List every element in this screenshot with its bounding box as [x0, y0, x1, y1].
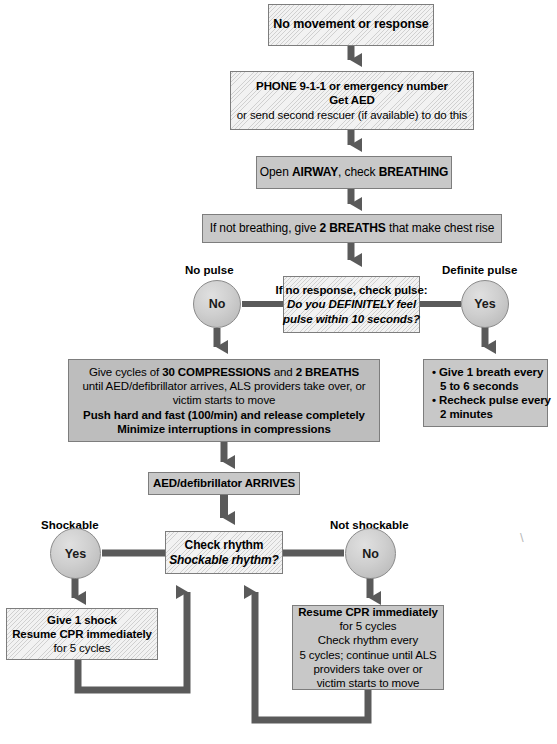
- node-resume-cpr-line6: victim starts to move: [317, 676, 420, 690]
- node-rescue-breathing-b1-line1: • Give 1 breath every: [432, 365, 543, 379]
- node-resume-cpr[interactable]: Resume CPR immediately for 5 cycles Chec…: [292, 605, 444, 690]
- node-resume-cpr-line2: for 5 cycles: [340, 619, 397, 633]
- node-pulse-check[interactable]: If no response, check pulse: Do you DEFI…: [283, 276, 420, 333]
- node-breaths-text: If not breathing, give 2 BREATHS that ma…: [210, 221, 495, 236]
- node-airway-bold-airway: AIRWAY: [292, 165, 338, 179]
- node-compressions[interactable]: Give cycles of 30 COMPRESSIONS and 2 BRE…: [68, 359, 380, 442]
- node-pulse-check-line1: If no response, check pulse:: [276, 283, 428, 297]
- node-pulse-check-line2: Do you DEFINITELY feel: [287, 297, 416, 311]
- circle-definite-pulse-label: Yes: [474, 297, 496, 311]
- node-phone-line2: Get AED: [329, 93, 375, 107]
- node-check-rhythm[interactable]: Check rhythm Shockable rhythm?: [165, 531, 283, 574]
- node-resume-cpr-line4: 5 cycles; continue until ALS: [299, 648, 436, 662]
- node-compressions-line3: victim starts to move: [173, 393, 276, 407]
- node-compressions-line4: Push hard and fast (100/min) and release…: [83, 408, 365, 422]
- node-compressions-line2: until AED/defibrillator arrives, ALS pro…: [83, 379, 366, 393]
- node-no-movement[interactable]: No movement or response: [268, 4, 434, 46]
- node-aed-arrives-line1: AED/defibrillator ARRIVES: [153, 476, 295, 490]
- node-airway-bold-breathing: BREATHING: [379, 165, 449, 179]
- node-no-movement-line1: No movement or response: [273, 17, 428, 32]
- node-aed-arrives[interactable]: AED/defibrillator ARRIVES: [148, 472, 300, 495]
- node-compressions-line5: Minimize interruptions in compressions: [117, 422, 330, 436]
- stray-mark: \: [520, 530, 524, 545]
- node-give-two-breaths[interactable]: If not breathing, give 2 BREATHS that ma…: [202, 214, 502, 243]
- node-give-shock-line3: for 5 cycles: [54, 641, 111, 655]
- node-phone-911[interactable]: PHONE 9-1-1 or emergency number Get AED …: [230, 71, 474, 130]
- label-definite-pulse: Definite pulse: [442, 264, 517, 276]
- node-check-rhythm-line1: Check rhythm: [185, 538, 264, 553]
- node-give-shock-line2: Resume CPR immediately: [12, 627, 152, 641]
- node-rescue-breathing[interactable]: • Give 1 breath every 5 to 6 seconds • R…: [423, 359, 548, 427]
- node-rescue-breathing-b2-line1: • Recheck pulse every: [432, 393, 551, 407]
- circle-no-pulse[interactable]: No: [193, 280, 241, 328]
- node-phone-line1: PHONE 9-1-1 or emergency number: [256, 79, 448, 93]
- node-check-rhythm-line2: Shockable rhythm?: [169, 553, 279, 568]
- circle-shockable-yes-label: Yes: [65, 547, 87, 561]
- label-no-pulse: No pulse: [185, 264, 234, 276]
- node-resume-cpr-line1: Resume CPR immediately: [298, 605, 438, 619]
- node-compressions-line1: Give cycles of 30 COMPRESSIONS and 2 BRE…: [89, 365, 359, 379]
- node-rescue-breathing-b1-line2: 5 to 6 seconds: [432, 379, 519, 393]
- circle-not-shockable-no[interactable]: No: [345, 528, 396, 579]
- node-phone-line3: or send second rescuer (if available) to…: [237, 108, 467, 122]
- circle-not-shockable-no-label: No: [362, 547, 379, 561]
- circle-definite-pulse[interactable]: Yes: [461, 280, 509, 328]
- node-airway-text: Open AIRWAY, check BREATHING: [260, 165, 448, 180]
- node-open-airway[interactable]: Open AIRWAY, check BREATHING: [256, 156, 452, 189]
- node-rescue-breathing-b2-line2: 2 minutes: [432, 407, 493, 421]
- circle-shockable-yes[interactable]: Yes: [50, 528, 101, 579]
- node-give-shock[interactable]: Give 1 shock Resume CPR immediately for …: [6, 608, 158, 660]
- circle-no-pulse-label: No: [209, 297, 226, 311]
- node-resume-cpr-line3: Check rhythm every: [318, 633, 418, 647]
- node-give-shock-line1: Give 1 shock: [47, 613, 117, 627]
- node-breaths-bold: 2 BREATHS: [319, 221, 385, 235]
- node-pulse-check-line3: pulse within 10 seconds?: [283, 312, 420, 326]
- node-resume-cpr-line5: providers take over or: [313, 662, 422, 676]
